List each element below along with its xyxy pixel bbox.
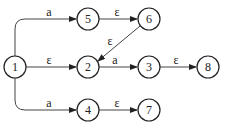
edge-label-1-2: ε [46,53,51,67]
state-1: 1 [4,56,26,78]
edge-6-2 [98,26,140,61]
edge-label-1-5: a [46,5,52,19]
state-label: 7 [146,103,152,117]
state-8: 8 [197,56,219,78]
state-label: 6 [146,12,152,26]
state-5: 5 [77,8,99,30]
edge-label-6-2: ε [107,34,112,48]
edge-1-5 [15,19,76,56]
state-label: 4 [85,103,91,117]
state-label: 8 [205,60,211,74]
state-label: 5 [85,12,91,26]
state-3: 3 [138,56,160,78]
state-label: 2 [85,60,91,74]
edge-label-2-3: a [112,53,118,67]
state-2: 2 [77,56,99,78]
state-label: 3 [146,60,152,74]
edge-label-4-7: ε [114,96,119,110]
edge-label-1-4: a [46,96,52,110]
nfa-diagram: a ε a ε ε a ε ε 1 5 6 2 3 8 4 7 [0,0,231,134]
state-4: 4 [77,99,99,121]
edge-label-5-6: ε [114,5,119,19]
state-label: 1 [12,60,18,74]
state-7: 7 [138,99,160,121]
edge-label-3-8: ε [173,53,178,67]
state-6: 6 [138,8,160,30]
